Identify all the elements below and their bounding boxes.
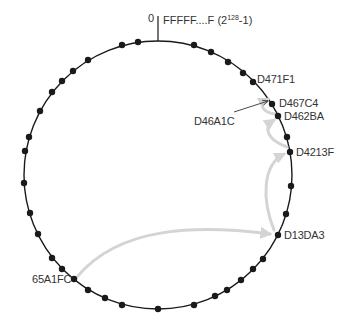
ring-node (59, 266, 65, 272)
origin-max-prefix: FFFFF....F (2 (163, 14, 227, 26)
hop-D13DA3-to-D4213F (266, 154, 284, 230)
ring-node (71, 276, 77, 282)
key-label-D46A1C: D46A1C (194, 115, 234, 127)
hop-D4213F-to-D462BA (268, 120, 287, 147)
ring-node (260, 256, 266, 262)
ring-node (35, 231, 41, 237)
ring-nodes (21, 39, 294, 312)
ring-node (287, 149, 293, 155)
ring-node (119, 42, 125, 48)
node-label-D4213F: D4213F (296, 146, 334, 158)
node-label-D471F1: D471F1 (257, 73, 295, 85)
ring-node (250, 79, 256, 85)
ring-node (275, 113, 281, 119)
origin-zero-label: 0 (148, 12, 154, 24)
ring-node (283, 211, 289, 217)
ring-node (208, 49, 214, 55)
ring-node (191, 42, 197, 48)
ring-node (85, 287, 91, 293)
ring-node (135, 39, 141, 45)
ring-node (224, 287, 230, 293)
hop-65A1FC-to-D13DA3 (77, 229, 270, 277)
ring-node (70, 68, 76, 74)
origin-max-label: FFFFF....F (2128-1) (163, 12, 252, 26)
ring-node (37, 108, 43, 114)
node-label-65A1FC: 65A1FC (32, 273, 71, 285)
ring-node (102, 295, 108, 301)
origin-max-exp: 128 (227, 14, 239, 21)
ring-node (22, 148, 28, 154)
ring-node (284, 134, 290, 140)
ring-node (212, 293, 218, 299)
ring-node (225, 59, 231, 65)
ring-node (238, 277, 244, 283)
node-label-D467C4: D467C4 (279, 97, 318, 109)
ring-node (269, 101, 275, 107)
ring-node (119, 302, 125, 308)
ring-node (191, 302, 197, 308)
ring-node (21, 180, 27, 186)
ring-node (250, 266, 256, 272)
ring-node (49, 255, 55, 261)
origin-max-suffix: -1) (239, 14, 252, 26)
node-label-D462BA: D462BA (284, 110, 324, 122)
ring-node (85, 57, 91, 63)
lookup-path (77, 99, 287, 277)
node-label-D13DA3: D13DA3 (284, 229, 324, 241)
ring-node (275, 232, 281, 238)
ring-node (59, 78, 65, 84)
ring-node (26, 134, 32, 140)
ring-node (288, 183, 294, 189)
ring-node (155, 306, 161, 312)
ring-node (27, 210, 33, 216)
ring-node (240, 70, 246, 76)
ring-node (49, 89, 55, 95)
